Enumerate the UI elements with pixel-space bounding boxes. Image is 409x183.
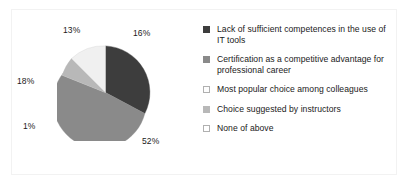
legend-item-label: Choice suggested by instructors [217, 104, 341, 115]
pie-label-suggested-by-instructors: 18% [17, 77, 34, 86]
legend-item-label: None of above [217, 123, 274, 134]
pie-plot-area: 13% 16% 52% 18% 1% [11, 9, 201, 175]
legend-item-label: Most popular choice among colleagues [217, 84, 368, 95]
legend-item-label: Lack of sufficient competences in the us… [217, 24, 393, 45]
legend-item-lack-of-competences[interactable]: Lack of sufficient competences in the us… [203, 24, 393, 45]
pie-chart-figure: 13% 16% 52% 18% 1% Lack of sufficient co… [0, 0, 409, 183]
pie-label-most-popular-choice: 1% [23, 122, 36, 131]
legend-swatch-icon [203, 106, 210, 113]
legend-item-suggested-by-instructors[interactable]: Choice suggested by instructors [203, 104, 393, 115]
chart-legend: Lack of sufficient competences in the us… [203, 24, 393, 143]
pie-label-certification-advantage: 52% [142, 137, 159, 146]
legend-swatch-icon [203, 86, 210, 93]
legend-swatch-icon [203, 26, 210, 33]
legend-swatch-icon [203, 56, 210, 63]
legend-item-none-of-above[interactable]: None of above [203, 123, 393, 134]
legend-item-label: Certification as a competitive advantage… [217, 54, 393, 75]
pie-graphic [57, 44, 154, 141]
legend-swatch-icon [203, 125, 210, 132]
legend-item-certification-advantage[interactable]: Certification as a competitive advantage… [203, 54, 393, 75]
pie-label-lack-of-competences: 16% [133, 29, 150, 38]
legend-item-most-popular-choice[interactable]: Most popular choice among colleagues [203, 84, 393, 95]
pie-slices-svg [57, 44, 154, 141]
pie-label-none-of-above: 13% [63, 26, 80, 35]
